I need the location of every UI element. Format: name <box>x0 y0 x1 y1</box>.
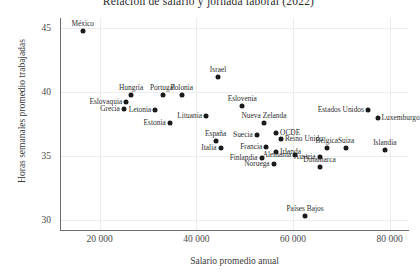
scatter-point-label: México <box>71 19 94 26</box>
y-axis-label: Horas semanales promedio trabajadas <box>17 11 27 211</box>
y-tick-label: 40 <box>42 87 52 97</box>
gridline-vertical <box>390 18 391 230</box>
scatter-point[interactable] <box>124 100 129 105</box>
scatter-point[interactable] <box>271 161 276 166</box>
scatter-point-label: España <box>205 129 226 136</box>
scatter-point[interactable] <box>121 106 126 111</box>
scatter-point[interactable] <box>218 146 223 151</box>
plot-area: 20 00040 00060 00080 00030354045MéxicoIs… <box>60 18 409 231</box>
scatter-point[interactable] <box>365 107 370 112</box>
scatter-point-label: Bélgica <box>316 137 339 144</box>
scatter-point[interactable] <box>344 146 349 151</box>
scatter-point-label: Islandia <box>373 138 396 145</box>
y-tick-label: 30 <box>42 215 52 225</box>
x-tick-label: 60 000 <box>280 234 306 244</box>
scatter-point-label: Noruega <box>244 160 269 167</box>
scatter-point[interactable] <box>264 144 269 149</box>
scatter-point[interactable] <box>204 114 209 119</box>
scatter-point-label: Francia <box>240 143 262 150</box>
scatter-point-label: Letonia <box>129 106 152 113</box>
x-axis-label: Salario promedio anual <box>60 256 409 266</box>
scatter-point-label: Polonia <box>171 83 194 90</box>
scatter-point-label: Italia <box>201 145 216 152</box>
scatter-point-label: Israel <box>210 65 226 72</box>
gridline-vertical <box>100 18 101 230</box>
scatter-point-label: Lituania <box>177 113 202 120</box>
scatter-point[interactable] <box>216 74 221 79</box>
scatter-point[interactable] <box>274 130 279 135</box>
x-tick-label: 20 000 <box>87 234 113 244</box>
scatter-point-label: Hungría <box>119 83 143 90</box>
y-tick-label: 35 <box>42 151 52 161</box>
scatter-point-label: Suecia <box>233 132 253 139</box>
x-tick-label: 80 000 <box>377 234 403 244</box>
scatter-point[interactable] <box>254 133 259 138</box>
gridline-horizontal <box>61 220 409 221</box>
gridline-horizontal <box>61 28 409 29</box>
gridline-vertical <box>196 18 197 230</box>
scatter-point[interactable] <box>382 147 387 152</box>
scatter-point[interactable] <box>240 104 245 109</box>
scatter-point[interactable] <box>375 115 380 120</box>
gridline-vertical <box>293 18 294 230</box>
scatter-point-label: Eslovenia <box>228 95 257 102</box>
scatter-point-label: Estonia <box>144 119 166 126</box>
scatter-point[interactable] <box>160 92 165 97</box>
scatter-point-label: Suiza <box>338 137 354 144</box>
scatter-point[interactable] <box>80 28 85 33</box>
scatter-point[interactable] <box>278 137 283 142</box>
y-tick-label: 45 <box>42 23 52 33</box>
scatter-point[interactable] <box>179 92 184 97</box>
scatter-point-label: Dinamarca <box>303 156 335 163</box>
x-tick-label: 40 000 <box>183 234 209 244</box>
scatter-point-label: Luxemburgo <box>382 114 420 121</box>
scatter-point-label: Países Bajos <box>286 205 323 212</box>
scatter-point[interactable] <box>303 213 308 218</box>
scatter-point-label: Estados Unidos <box>318 106 364 113</box>
scatter-point[interactable] <box>213 138 218 143</box>
scatter-point-label: Nueva Zelanda <box>242 111 287 118</box>
scatter-point[interactable] <box>324 146 329 151</box>
scatter-point[interactable] <box>153 107 158 112</box>
scatter-point[interactable] <box>317 165 322 170</box>
chart-title: Relación de salario y jornada laboral (2… <box>0 0 417 7</box>
scatter-point[interactable] <box>129 92 134 97</box>
scatter-point[interactable] <box>167 120 172 125</box>
scatter-point-label: Grecia <box>100 105 120 112</box>
scatter-point-label: Alemania <box>263 151 292 158</box>
scatter-point[interactable] <box>262 120 267 125</box>
